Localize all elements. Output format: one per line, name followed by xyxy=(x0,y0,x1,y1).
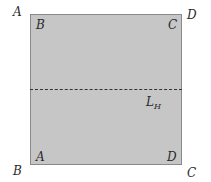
outer-label-bottom-right: C xyxy=(187,167,196,179)
inner-label-bottom-left: A xyxy=(36,151,45,163)
fold-line-horizontal xyxy=(30,89,182,90)
inner-label-bottom-right: D xyxy=(167,151,177,163)
outer-label-top-right: D xyxy=(187,9,197,21)
fold-line-label-main: L xyxy=(146,95,154,109)
fold-line-label-subscript: H xyxy=(154,102,161,111)
inner-label-top-right: C xyxy=(168,19,177,31)
fold-line-label: LH xyxy=(146,96,161,111)
inner-label-top-left: B xyxy=(36,19,45,31)
outer-label-bottom-left: B xyxy=(13,165,22,177)
outer-label-top-left: A xyxy=(13,6,22,18)
